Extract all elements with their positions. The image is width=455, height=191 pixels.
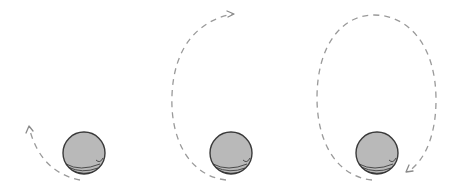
orbit-diagram: Three stages of an orbit: a ball with a … [0, 0, 455, 191]
ball-2 [210, 132, 252, 175]
diagram-canvas [0, 0, 455, 191]
stage-1 [26, 126, 105, 180]
ball-1 [63, 132, 105, 175]
arrow-right-icon [227, 11, 234, 17]
arrow-up-left-icon [26, 126, 33, 133]
stage-3 [317, 15, 436, 180]
stage-2 [172, 11, 252, 180]
ball-3 [356, 132, 398, 175]
